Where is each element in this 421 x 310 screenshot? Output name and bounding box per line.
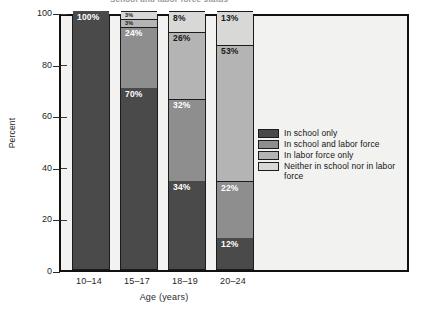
legend-swatch [258,129,279,138]
y-tick-label: 80 [26,61,52,70]
bar-segment[interactable]: 3% [121,11,157,19]
y-axis-title: Percent [7,103,17,163]
bar-value-label: 3% [121,12,133,18]
bar-value-label: 12% [217,238,239,249]
bar-column[interactable]: 100% [72,16,110,270]
y-axis-tick-labels: 020406080100 [24,0,52,310]
chart-title: School and labor force status [110,0,250,4]
y-tick-mark [53,169,60,170]
y-tick-mark-inner [61,117,67,118]
bar-value-label: 100% [73,11,100,22]
x-axis-title: Age (years) [59,292,269,302]
legend-label: Neither in school nor in labor force [284,161,416,181]
y-tick-label: 0 [26,267,52,276]
y-tick-mark [53,14,60,15]
bar-value-label: 70% [121,88,143,99]
bar-segment[interactable]: 70% [121,88,157,269]
bar-stack: 34%32%26%8% [168,16,206,270]
chart-legend: In school onlyIn school and labor forceI… [258,128,416,182]
y-tick-label: 100 [26,9,52,18]
bar-segment[interactable]: 34% [169,181,205,269]
bar-column[interactable]: 70%24%3%3% [120,16,158,270]
bar-segment[interactable]: 32% [169,99,205,182]
y-tick-label: 40 [26,164,52,173]
legend-swatch [258,140,279,149]
legend-item[interactable]: In school only [258,128,416,138]
bar-column[interactable]: 34%32%26%8% [168,16,206,270]
bar-value-label: 32% [169,100,191,111]
bar-segment[interactable]: 13% [217,11,253,45]
y-tick-mark-inner [61,14,67,15]
bar-stack: 100% [72,16,110,270]
bar-stack: 12%22%53%13% [216,16,254,270]
bar-segment[interactable]: 100% [73,11,109,269]
y-tick-mark [53,272,60,273]
bar-segment[interactable]: 12% [217,238,253,269]
bar-value-label: 34% [169,181,191,192]
bar-segment[interactable]: 22% [217,181,253,238]
legend-label: In school and labor force [284,139,380,149]
legend-label: In school only [284,128,337,138]
bar-value-label: 22% [217,182,239,193]
bar-value-label: 26% [169,33,191,44]
stacked-bar-chart: School and labor force status Percent 02… [0,0,421,310]
bar-column[interactable]: 12%22%53%13% [216,16,254,270]
legend-item[interactable]: In labor force only [258,150,416,160]
legend-item[interactable]: Neither in school nor in labor force [258,161,416,181]
y-tick-mark-inner [61,65,67,66]
y-tick-mark-inner [61,168,67,169]
legend-label: In labor force only [284,150,353,160]
bar-segment[interactable]: 26% [169,32,205,99]
bar-stack: 70%24%3%3% [120,16,158,270]
bar-segment[interactable]: 24% [121,27,157,89]
y-tick-mark-inner [61,220,67,221]
x-tick-label: 20–24 [203,276,263,286]
legend-swatch [258,162,279,171]
bar-value-label: 53% [217,46,239,57]
bar-value-label: 3% [121,20,133,26]
bar-value-label: 8% [169,12,186,23]
y-tick-label: 20 [26,215,52,224]
bar-value-label: 13% [217,12,239,23]
y-tick-mark [53,66,60,67]
bar-segment[interactable]: 53% [217,45,253,182]
y-tick-label: 60 [26,112,52,121]
y-tick-mark [53,220,60,221]
bar-value-label: 24% [121,28,143,39]
legend-item[interactable]: In school and labor force [258,139,416,149]
bar-segment[interactable]: 3% [121,19,157,27]
bar-segment[interactable]: 8% [169,11,205,32]
legend-swatch [258,151,279,160]
y-tick-mark [53,117,60,118]
